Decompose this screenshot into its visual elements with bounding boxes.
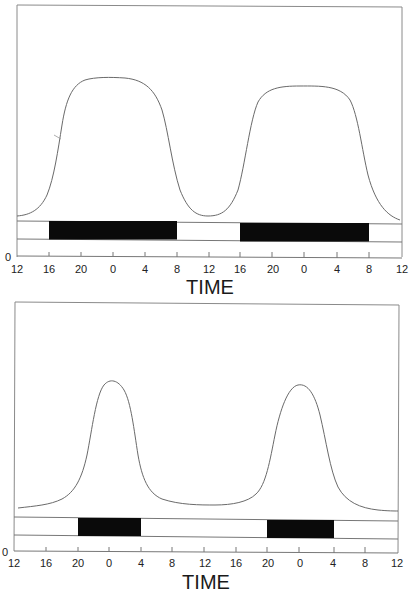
dark-period-2 (267, 520, 334, 538)
tick-label: 20 (262, 557, 274, 569)
tick-label: 0 (106, 557, 112, 569)
dark-period-2 (240, 223, 369, 242)
tick-label: 0 (297, 557, 303, 569)
bar-outline (14, 517, 398, 539)
chart-1-y-origin-label: 0 (5, 251, 11, 263)
tick-label: 20 (72, 557, 84, 569)
chart-2-tick-labels: 12 16 20 0 4 8 12 16 20 0 4 8 12 (8, 557, 403, 569)
chart-1-tick-labels: 12 16 20 0 4 8 12 16 20 0 4 8 12 (11, 263, 408, 275)
chart-1-frame (17, 5, 402, 257)
tick-label: 8 (362, 557, 368, 569)
tick-label: 0 (301, 263, 307, 275)
tick-label: 20 (267, 263, 279, 275)
tick-label: 16 (230, 557, 242, 569)
tick-label: 16 (43, 263, 55, 275)
chart-2-x-axis (14, 551, 398, 553)
chart-2-frame (14, 302, 399, 553)
chart-1-curve (17, 77, 400, 220)
chart-1-light-dark-bar (17, 221, 402, 242)
tick-label: 12 (11, 263, 23, 275)
chart-2-curve (18, 381, 398, 511)
dark-period-1 (78, 518, 141, 536)
tick-label: 20 (75, 263, 87, 275)
tick-label: 4 (330, 557, 336, 569)
tick-label: 4 (142, 263, 148, 275)
chart-1: 0 12 16 20 0 4 8 12 16 20 0 4 8 12 TIME (5, 5, 408, 298)
tick-label: 12 (203, 263, 215, 275)
tick-label: 8 (169, 557, 175, 569)
tick-label: 12 (396, 263, 408, 275)
tick-label: 4 (138, 557, 144, 569)
dark-period-1 (49, 221, 177, 240)
chart-2-light-dark-bar (14, 517, 398, 539)
tick-label: 12 (391, 557, 403, 569)
chart-2-x-axis-title: TIME (182, 571, 230, 593)
tick-label: 16 (234, 263, 246, 275)
figure-canvas: 0 12 16 20 0 4 8 12 16 20 0 4 8 12 TIME (0, 0, 411, 595)
chart-2: 0 12 16 20 0 4 8 12 16 20 0 4 8 12 TIME (2, 302, 403, 593)
tick-label: 12 (199, 557, 211, 569)
tick-label: 0 (110, 263, 116, 275)
tick-label: 4 (334, 263, 340, 275)
tick-label: 12 (8, 557, 20, 569)
tick-label: 8 (174, 263, 180, 275)
chart-1-x-axis-title: TIME (186, 276, 234, 298)
tick-label: 8 (366, 263, 372, 275)
tick-label: 16 (40, 557, 52, 569)
